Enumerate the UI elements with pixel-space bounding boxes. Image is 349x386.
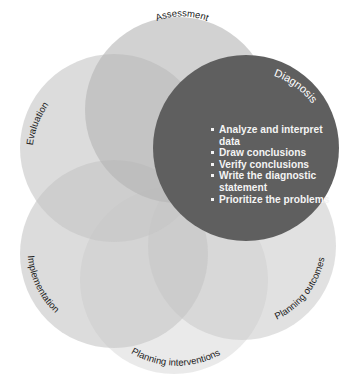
- bullet-item: Prioritize the problems: [211, 194, 346, 206]
- bullet-item: Verify conclusions: [211, 159, 346, 171]
- bullet-item: Analyze and interpret data: [211, 124, 346, 147]
- bullet-item: Write the diagnostic statement: [211, 170, 346, 193]
- bullet-item: Draw conclusions: [211, 147, 346, 159]
- diagnosis-bullet-list: Analyze and interpret data Draw conclusi…: [211, 124, 346, 205]
